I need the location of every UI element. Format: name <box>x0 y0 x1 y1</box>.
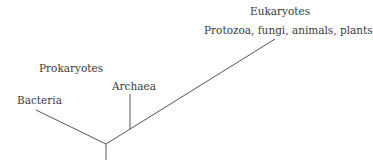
eukaryotes-members-label: Protozoa, fungi, animals, plants <box>204 25 373 36</box>
eukaryotes-label: Eukaryotes <box>250 6 310 17</box>
prokaryotes-label: Prokaryotes <box>39 63 103 74</box>
archaea-label: Archaea <box>112 81 156 92</box>
bacteria-branch <box>36 110 106 144</box>
bacteria-label: Bacteria <box>17 95 62 106</box>
